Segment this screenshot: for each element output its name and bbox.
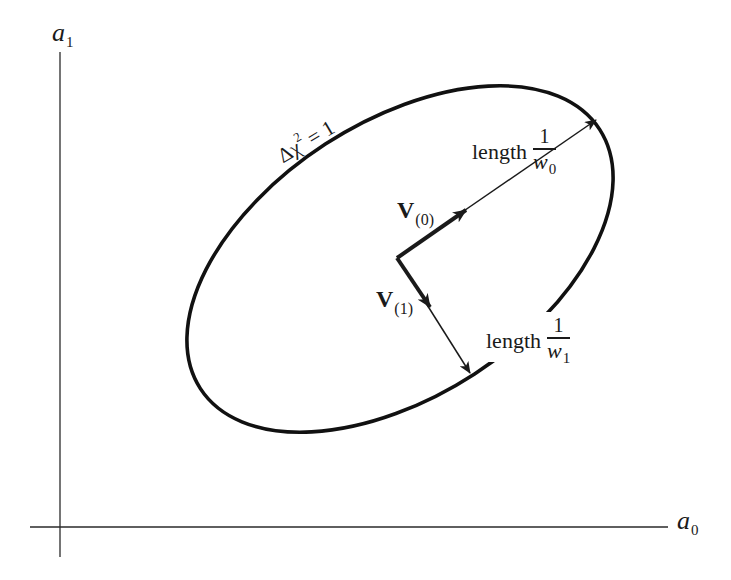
length-w1-fraction: 1 w1 <box>547 315 570 362</box>
vector-v0-label: V(0) <box>397 198 434 222</box>
length-w0-denominator-subscript: 0 <box>549 161 557 177</box>
x-axis-label-subscript: 0 <box>691 522 699 538</box>
y-axis-label: a1 <box>52 20 74 46</box>
x-axis-label-symbol: a <box>677 506 690 535</box>
vector-v0-subscript: (0) <box>415 211 434 228</box>
length-w1-text: length <box>486 330 541 352</box>
vector-v1-label: V(1) <box>376 287 413 311</box>
length-w1-label: length 1 w1 <box>486 315 570 362</box>
length-w1-denominator: w1 <box>547 339 570 362</box>
diagram-canvas: a1 a0 Δχ2 = 1 V(0) V(1) length 1 w0 leng… <box>0 0 731 580</box>
length-w0-fraction: 1 w0 <box>533 126 556 173</box>
vector-v1-extension <box>424 300 470 373</box>
length-w0-denominator-symbol: w <box>533 149 548 174</box>
y-axis-label-symbol: a <box>52 18 65 47</box>
vector-v1-subscript: (1) <box>394 300 413 317</box>
length-w0-text: length <box>472 141 527 163</box>
length-w0-denominator: w0 <box>533 150 556 173</box>
x-axis-label: a0 <box>677 508 699 534</box>
length-w1-numerator: 1 <box>552 315 566 337</box>
length-w1-denominator-symbol: w <box>547 338 562 363</box>
length-w0-numerator: 1 <box>538 126 552 148</box>
vector-v1-symbol: V <box>376 286 393 312</box>
length-w1-denominator-subscript: 1 <box>563 350 571 366</box>
length-w0-label: length 1 w0 <box>472 126 556 173</box>
diagram-svg <box>0 0 731 580</box>
y-axis-label-subscript: 1 <box>66 34 74 50</box>
vector-v0-symbol: V <box>397 197 414 223</box>
